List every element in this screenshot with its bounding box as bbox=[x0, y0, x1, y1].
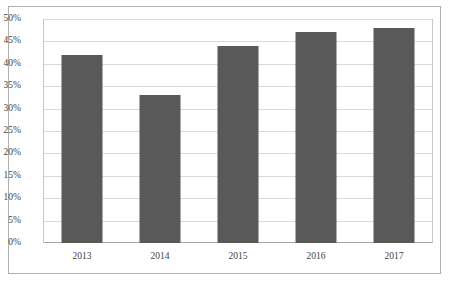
ytick-label-45: 45% bbox=[0, 37, 21, 47]
ytick-label-40: 40% bbox=[0, 59, 21, 69]
ytick-label-5: 5% bbox=[0, 216, 21, 226]
ytick-label-50: 50% bbox=[0, 14, 21, 24]
bar-2013[interactable] bbox=[62, 55, 103, 243]
bar-2017[interactable] bbox=[374, 28, 415, 243]
bar-2014[interactable] bbox=[140, 95, 181, 243]
ytick-label-15: 15% bbox=[0, 171, 21, 181]
xtick-label-2016: 2016 bbox=[277, 252, 355, 262]
bar-2015[interactable] bbox=[218, 46, 259, 243]
xtick-label-2017: 2017 bbox=[355, 252, 433, 262]
bar-slot-2014 bbox=[121, 19, 199, 243]
ytick-label-0: 0% bbox=[0, 238, 21, 248]
ytick-label-35: 35% bbox=[0, 81, 21, 91]
xtick-label-2015: 2015 bbox=[199, 252, 277, 262]
bar-slot-2016 bbox=[277, 19, 355, 243]
xtick-label-2014: 2014 bbox=[121, 252, 199, 262]
ytick-label-30: 30% bbox=[0, 104, 21, 114]
bar-slot-2013 bbox=[43, 19, 121, 243]
bar-2016[interactable] bbox=[296, 32, 337, 243]
xtick-label-2013: 2013 bbox=[43, 252, 121, 262]
bar-chart-figure: 50% 45% 40% 35% 30% 25% 20% 15% 10% 5% 0… bbox=[0, 0, 449, 282]
bar-slot-2015 bbox=[199, 19, 277, 243]
bar-slot-2017 bbox=[355, 19, 433, 243]
ytick-label-25: 25% bbox=[0, 126, 21, 136]
ytick-label-10: 10% bbox=[0, 193, 21, 203]
ytick-label-20: 20% bbox=[0, 149, 21, 159]
bars-layer bbox=[43, 19, 433, 243]
